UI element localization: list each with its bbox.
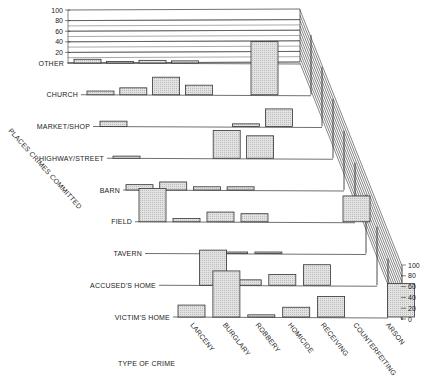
x-axis-title: TYPE OF CRIME xyxy=(118,360,175,367)
row-label: CHURCH xyxy=(46,91,78,98)
bar xyxy=(172,61,199,63)
bar xyxy=(251,42,278,95)
row-label: BARN xyxy=(100,187,120,194)
bar xyxy=(303,265,330,286)
bar xyxy=(255,252,282,254)
bar xyxy=(269,274,296,285)
row-label: VICTIM'S HOME xyxy=(115,314,170,321)
right-tick-label: 20 xyxy=(408,305,416,312)
row-label: TAVERN xyxy=(113,250,142,257)
category-label: RECEIVING xyxy=(320,321,350,357)
row-label: HIGHWAY/STREET xyxy=(39,155,105,162)
category-label: BURGLARY xyxy=(222,321,252,357)
right-tick-label: 40 xyxy=(408,294,416,301)
row-label: OTHER xyxy=(39,60,65,67)
bar xyxy=(343,196,370,222)
right-tick-label: 60 xyxy=(408,283,416,290)
right-tick-label: 0 xyxy=(408,316,412,323)
bar xyxy=(139,188,166,221)
bar xyxy=(87,91,114,95)
category-label: ROBBERY xyxy=(254,321,281,353)
bar xyxy=(139,60,166,63)
bar xyxy=(232,124,259,127)
bar xyxy=(227,187,254,190)
category-label: LARCENY xyxy=(189,321,216,353)
bar xyxy=(178,305,205,317)
left-axis-ticks: 10080604020 xyxy=(51,7,70,64)
bar xyxy=(266,109,293,127)
bar xyxy=(74,59,101,63)
right-tick-label: 100 xyxy=(408,262,420,269)
bar xyxy=(173,219,200,222)
row-label: FIELD xyxy=(111,218,132,225)
right-tick-label: 80 xyxy=(408,272,416,279)
row-label: ACCUSED'S HOME xyxy=(90,282,156,289)
bar xyxy=(241,214,268,222)
category-labels: LARCENYBURGLARYROBBERYHOMICIDERECEIVINGC… xyxy=(189,321,406,377)
bar xyxy=(283,307,310,317)
bar xyxy=(207,212,234,222)
bar xyxy=(120,88,147,95)
bar xyxy=(113,156,140,158)
bar xyxy=(213,130,240,158)
bar xyxy=(107,62,134,64)
row-label: MARKET/SHOP xyxy=(37,123,90,130)
category-label: ARSON xyxy=(385,321,406,346)
bar xyxy=(213,271,240,317)
category-label: HOMICIDE xyxy=(287,321,315,354)
left-tick-label: 20 xyxy=(55,49,63,56)
bar xyxy=(153,77,180,95)
bar xyxy=(247,136,274,158)
left-tick-label: 40 xyxy=(55,38,63,45)
bar xyxy=(318,296,345,317)
bar xyxy=(100,121,127,126)
crime-places-3d-bar-chart: OTHERCHURCHMARKET/SHOPHIGHWAY/STREETBARN… xyxy=(0,0,427,381)
bar xyxy=(185,85,212,95)
left-tick-label: 100 xyxy=(51,7,63,14)
left-tick-label: 60 xyxy=(55,28,63,35)
left-tick-label: 80 xyxy=(55,17,63,24)
bar xyxy=(248,315,275,317)
y-axis-title: PLACES CRIMES COMMITTED xyxy=(7,127,83,210)
bar xyxy=(193,187,220,190)
